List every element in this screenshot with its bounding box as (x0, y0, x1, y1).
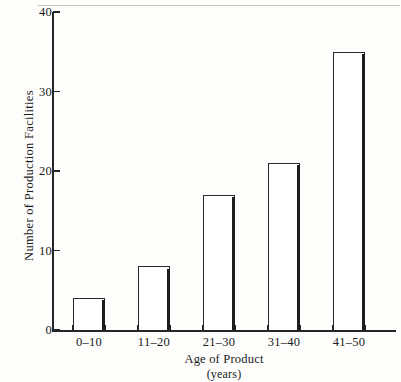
x-axis-title-text: Age of Product (184, 352, 263, 366)
y-axis-tick (53, 250, 60, 252)
x-axis-title-unit: (years) (52, 367, 396, 382)
y-axis-tick-label: 40 (26, 6, 52, 18)
y-axis-tick (53, 170, 60, 172)
bar-chart-figure: 010203040 0–1011–2021–3031–4041–50 Age o… (0, 0, 401, 382)
y-axis-tick (53, 11, 60, 13)
bar (203, 195, 235, 330)
bar (333, 52, 365, 330)
bar (73, 298, 105, 330)
x-axis-tick-label: 41–50 (309, 335, 389, 349)
x-axis-title: Age of Product (years) (52, 352, 396, 381)
bar (138, 266, 170, 330)
bar-shadow-edge (232, 197, 235, 330)
y-axis-tick-label-wrap: 40 (0, 6, 52, 18)
bar-shadow-edge (167, 269, 170, 330)
bar-shadow-edge (362, 54, 365, 330)
bar (268, 163, 300, 330)
y-axis-tick-label-wrap: 0 (0, 324, 52, 336)
y-axis-tick (53, 91, 60, 93)
y-axis-title: Number of Production Facilities (22, 51, 37, 301)
y-axis-tick (53, 329, 60, 331)
bar-shadow-edge (297, 165, 300, 330)
bar-shadow-edge (102, 300, 105, 330)
